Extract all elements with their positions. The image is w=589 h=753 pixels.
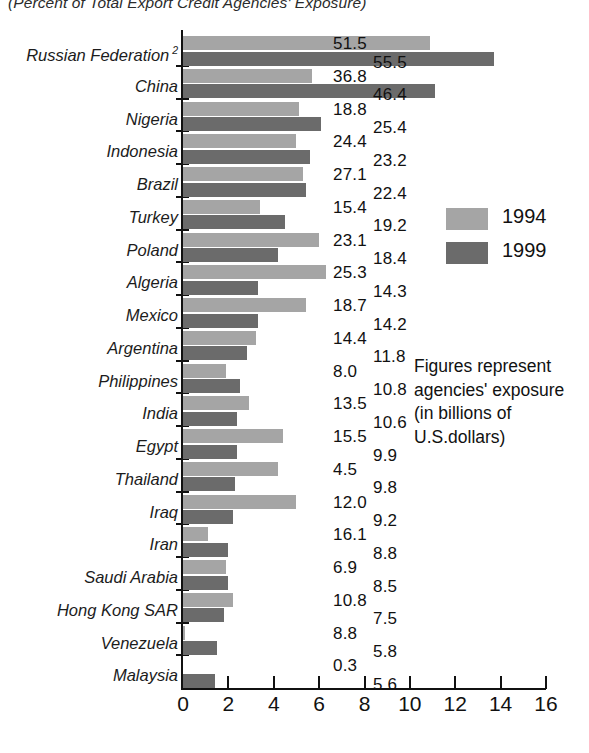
x-tick-6 <box>318 676 320 689</box>
bar-1994 <box>183 134 296 148</box>
bar-1999 <box>183 248 278 262</box>
x-tick-label-4: 4 <box>254 692 294 716</box>
annotation-line: Figures represent <box>414 355 589 379</box>
category-label: Russian Federation 2 <box>0 44 178 65</box>
bar-chart: (Percent of Total Export Credit Agencies… <box>0 0 589 753</box>
category-label: Turkey <box>0 208 178 227</box>
annotation-line: (in billions of <box>414 402 589 426</box>
bar-1999 <box>183 543 228 557</box>
bar-1994 <box>183 200 260 214</box>
bar-1999 <box>183 445 237 459</box>
x-tick-2 <box>227 676 229 689</box>
category-label: Nigeria <box>0 110 178 129</box>
category-label: China <box>0 77 178 96</box>
category-label: Argentina <box>0 339 178 358</box>
bar-1994 <box>183 396 249 410</box>
bar-1994 <box>183 495 296 509</box>
value-label-1999: 25.4 <box>373 118 407 138</box>
value-label-1999: 11.8 <box>373 347 406 367</box>
value-label-1994: 8.8 <box>333 624 357 644</box>
value-label-1999: 7.5 <box>373 609 397 629</box>
bar-1999 <box>183 477 235 491</box>
bar-1999 <box>183 117 321 131</box>
category-label: Indonesia <box>0 142 178 161</box>
value-label-1999: 9.9 <box>373 446 397 466</box>
legend-swatch <box>446 208 488 230</box>
value-label-1999: 19.2 <box>373 216 407 236</box>
category-label: Mexico <box>0 306 178 325</box>
category-label: Iraq <box>0 503 178 522</box>
bar-1999 <box>183 215 285 229</box>
x-tick-label-14: 14 <box>481 692 521 716</box>
value-label-1999: 18.4 <box>373 249 407 269</box>
value-label-1999: 5.8 <box>373 642 397 662</box>
value-label-1994: 18.8 <box>333 100 367 120</box>
value-label-1999: 8.5 <box>373 577 397 597</box>
x-tick-4 <box>273 676 275 689</box>
category-label: Philippines <box>0 372 178 391</box>
x-tick-label-0: 0 <box>163 692 203 716</box>
bar-1994 <box>183 626 185 640</box>
category-label: Iran <box>0 535 178 554</box>
bar-1999 <box>183 412 237 426</box>
bar-1999 <box>183 674 215 688</box>
value-label-1994: 24.4 <box>333 132 367 152</box>
category-label: Venezuela <box>0 634 178 653</box>
bar-1994 <box>183 36 430 50</box>
value-label-1994: 23.1 <box>333 231 367 251</box>
bar-1994 <box>183 298 306 312</box>
category-footnote-marker: 2 <box>169 44 178 56</box>
value-label-1994: 27.1 <box>333 165 367 185</box>
value-label-1994: 15.5 <box>333 427 367 447</box>
value-label-1999: 10.8 <box>373 380 407 400</box>
x-tick-16 <box>545 676 547 689</box>
value-label-1994: 14.4 <box>333 329 367 349</box>
category-label: Egypt <box>0 437 178 456</box>
bar-1994 <box>183 233 319 247</box>
category-label: Hong Kong SAR <box>0 601 178 620</box>
legend-swatch <box>446 242 488 264</box>
bar-1994 <box>183 527 208 541</box>
value-label-1994: 18.7 <box>333 296 367 316</box>
bar-1999 <box>183 510 233 524</box>
category-label: Saudi Arabia <box>0 568 178 587</box>
x-tick-label-16: 16 <box>526 692 566 716</box>
bar-1994 <box>183 102 299 116</box>
category-label: Brazil <box>0 175 178 194</box>
category-label: India <box>0 404 178 423</box>
bar-1999 <box>183 150 310 164</box>
value-label-1999: 14.3 <box>373 282 407 302</box>
x-tick-label-6: 6 <box>299 692 339 716</box>
category-label: Thailand <box>0 470 178 489</box>
annotation-line: agencies' exposure <box>414 379 589 403</box>
bar-1994 <box>183 593 233 607</box>
value-label-1999: 8.8 <box>373 544 397 564</box>
value-label-1999: 10.6 <box>373 413 407 433</box>
value-label-1994: 51.5 <box>333 34 367 54</box>
chart-annotation: Figures representagencies' exposure(in b… <box>414 355 589 449</box>
bar-1999 <box>183 576 228 590</box>
bar-1994 <box>183 265 326 279</box>
value-label-1994: 13.5 <box>333 394 367 414</box>
value-label-1994: 15.4 <box>333 198 367 218</box>
bar-1999 <box>183 281 258 295</box>
value-label-1994: 8.0 <box>333 362 357 382</box>
bar-1994 <box>183 560 226 574</box>
value-label-1994: 12.0 <box>333 493 367 513</box>
bar-1994 <box>183 462 278 476</box>
x-tick-label-12: 12 <box>435 692 475 716</box>
bar-1994 <box>183 429 283 443</box>
value-label-1999: 23.2 <box>373 151 407 171</box>
x-tick-14 <box>500 676 502 689</box>
value-label-1994: 25.3 <box>333 263 367 283</box>
bar-1999 <box>183 183 306 197</box>
bar-1994 <box>183 364 226 378</box>
legend-label: 1999 <box>502 239 547 262</box>
category-label: Malaysia <box>0 666 178 685</box>
value-label-1999: 46.4 <box>373 85 407 105</box>
x-tick-12 <box>454 676 456 689</box>
category-label: Algeria <box>0 273 178 292</box>
value-label-1994: 16.1 <box>333 525 367 545</box>
value-label-1994: 6.9 <box>333 558 357 578</box>
value-label-1999: 55.5 <box>373 53 407 73</box>
